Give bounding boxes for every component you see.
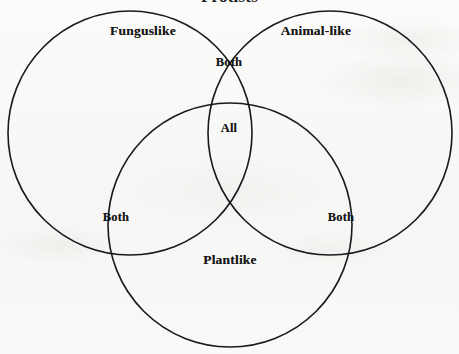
set-label-funguslike: Funguslike (110, 23, 176, 39)
venn-circles (0, 0, 459, 354)
set-label-plantlike: Plantlike (203, 252, 257, 268)
set-label-animal-like: Animal-like (281, 23, 351, 39)
region-label-animal-plantlike-both: Both (328, 210, 355, 225)
region-label-all: All (221, 121, 238, 136)
venn-diagram-page: Protists Funguslike Animal-like Plantlik… (0, 0, 459, 354)
region-label-funguslike-animal-both: Both (216, 55, 243, 70)
circle-funguslike (8, 11, 252, 255)
region-label-funguslike-plantlike-both: Both (103, 210, 130, 225)
circle-plantlike (108, 103, 352, 347)
